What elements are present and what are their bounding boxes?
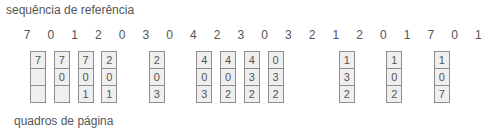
- frame-cell: 3: [340, 69, 354, 86]
- reference-item: 1: [470, 28, 486, 42]
- frame-column: 403: [196, 51, 212, 103]
- reference-item: 2: [209, 28, 225, 42]
- frame-cell: 0: [221, 69, 235, 86]
- frame-cell: 7: [55, 52, 69, 69]
- frame-cell: 0: [79, 69, 93, 86]
- reference-item: 4: [185, 28, 201, 42]
- frame-column: 70: [54, 51, 70, 103]
- reference-item: 1: [67, 28, 83, 42]
- frame-column: 102: [386, 51, 402, 103]
- frame-cell: 0: [197, 69, 211, 86]
- frame-cell: 0: [387, 69, 401, 86]
- frame-column: 201: [101, 51, 117, 103]
- frame-cell: 0: [435, 69, 449, 86]
- frame-cell: 0: [55, 69, 69, 86]
- frame-column: 032: [268, 51, 284, 103]
- frame-cell: 1: [79, 86, 93, 102]
- frame-cell: 2: [340, 86, 354, 102]
- reference-item: 3: [138, 28, 154, 42]
- reference-item: 7: [19, 28, 35, 42]
- frame-cell: 1: [435, 52, 449, 69]
- reference-item: 2: [90, 28, 106, 42]
- frame-cell: [31, 69, 45, 86]
- frame-cell: 2: [387, 86, 401, 102]
- frame-cell: 0: [269, 52, 283, 69]
- frame-column: 701: [78, 51, 94, 103]
- reference-item: 3: [280, 28, 296, 42]
- page-frames-label: quadros de página: [14, 114, 113, 128]
- frame-cell: 1: [340, 52, 354, 69]
- frame-cell: 2: [150, 52, 164, 69]
- frame-cell: 2: [221, 86, 235, 102]
- frame-cell: 1: [387, 52, 401, 69]
- reference-item: 0: [447, 28, 463, 42]
- reference-item: 7: [423, 28, 439, 42]
- frame-cell: 7: [79, 52, 93, 69]
- frame-cell: 7: [435, 86, 449, 102]
- frame-cell: 0: [102, 69, 116, 86]
- frame-cell: 4: [245, 52, 259, 69]
- frame-column: 203: [149, 51, 165, 103]
- frame-cell: 2: [102, 52, 116, 69]
- reference-string-label: sequência de referência: [6, 3, 134, 17]
- frame-cell: 1: [102, 86, 116, 102]
- frame-column: 7: [30, 51, 46, 103]
- frame-cell: 4: [221, 52, 235, 69]
- frame-column: 132: [339, 51, 355, 103]
- frame-cell: 0: [150, 69, 164, 86]
- frame-cell: 2: [245, 86, 259, 102]
- reference-item: 1: [328, 28, 344, 42]
- frame-cell: 3: [245, 69, 259, 86]
- reference-item: 0: [375, 28, 391, 42]
- reference-item: 0: [257, 28, 273, 42]
- reference-item: 0: [114, 28, 130, 42]
- frame-cell: 2: [269, 86, 283, 102]
- frame-cell: 3: [269, 69, 283, 86]
- frame-cell: [55, 86, 69, 102]
- reference-item: 3: [233, 28, 249, 42]
- frame-cell: [31, 86, 45, 102]
- frame-column: 402: [220, 51, 236, 103]
- frame-column: 107: [434, 51, 450, 103]
- frame-cell: 3: [150, 86, 164, 102]
- reference-item: 0: [162, 28, 178, 42]
- reference-item: 1: [399, 28, 415, 42]
- frame-cell: 7: [31, 52, 45, 69]
- reference-item: 0: [43, 28, 59, 42]
- frame-column: 432: [244, 51, 260, 103]
- frame-cell: 4: [197, 52, 211, 69]
- reference-item: 2: [304, 28, 320, 42]
- reference-item: 2: [352, 28, 368, 42]
- frame-cell: 3: [197, 86, 211, 102]
